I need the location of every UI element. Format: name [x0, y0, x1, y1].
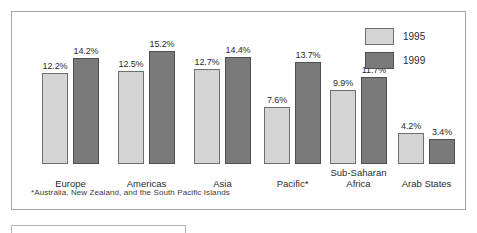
legend-swatch-1999	[365, 52, 394, 69]
bar-1999-Sub-Saharan-Africa[interactable]: 11.7%	[361, 77, 387, 164]
bar-fill	[330, 90, 356, 164]
legend-label-1995: 1995	[403, 31, 425, 42]
chart-legend: 19951999	[365, 26, 451, 74]
bar-fill	[42, 73, 68, 164]
bar-fill	[149, 51, 175, 164]
bar-1995-Pacific-[interactable]: 7.6%	[264, 107, 290, 164]
bar-group: 7.6%13.7%Pacific*	[264, 12, 321, 209]
bar-value-label: 3.4%	[432, 127, 452, 137]
category-label: Pacific*	[264, 178, 321, 189]
bar-value-label: 14.2%	[73, 46, 98, 56]
bar-1999-Asia[interactable]: 14.4%	[225, 57, 251, 164]
lower-panel-edge	[11, 225, 186, 233]
category-label: Sub-Saharan Africa	[330, 167, 387, 189]
bar-fill	[73, 58, 99, 164]
bar-value-label: 15.2%	[149, 39, 174, 49]
category-label: Arab States	[398, 178, 455, 189]
bar-fill	[429, 139, 455, 164]
bar-fill	[295, 62, 321, 164]
bar-1995-Europe[interactable]: 12.2%	[42, 73, 68, 164]
legend-label-1999: 1999	[403, 55, 425, 66]
chart-frame: 12.2%14.2%Europe12.5%15.2%Americas12.7%1…	[11, 11, 466, 210]
bar-1995-Americas[interactable]: 12.5%	[118, 71, 144, 164]
bar-fill	[398, 133, 424, 164]
legend-item-1999[interactable]: 1999	[365, 50, 451, 71]
bar-group: 12.7%14.4%Asia	[194, 12, 251, 209]
bar-fill	[118, 71, 144, 164]
bar-value-label: 4.2%	[401, 121, 421, 131]
bar-value-label: 12.2%	[42, 61, 67, 71]
bar-1999-Americas[interactable]: 15.2%	[149, 51, 175, 164]
bar-value-label: 14.4%	[225, 45, 250, 55]
chart-footnote: *Australia, New Zealand, and the South P…	[31, 188, 230, 197]
bar-value-label: 13.7%	[295, 50, 320, 60]
bar-1999-Pacific-[interactable]: 13.7%	[295, 62, 321, 164]
bar-fill	[361, 77, 387, 164]
bar-value-label: 12.7%	[194, 57, 219, 67]
bar-1995-Asia[interactable]: 12.7%	[194, 69, 220, 164]
bar-fill	[194, 69, 220, 164]
bar-fill	[225, 57, 251, 164]
legend-item-1995[interactable]: 1995	[365, 26, 451, 47]
bar-1995-Arab-States[interactable]: 4.2%	[398, 133, 424, 164]
bar-1995-Sub-Saharan-Africa[interactable]: 9.9%	[330, 90, 356, 164]
bar-1999-Europe[interactable]: 14.2%	[73, 58, 99, 164]
bar-value-label: 12.5%	[118, 59, 143, 69]
bar-fill	[264, 107, 290, 164]
bar-group: 12.2%14.2%Europe	[42, 12, 99, 209]
bar-value-label: 9.9%	[333, 78, 353, 88]
bar-1999-Arab-States[interactable]: 3.4%	[429, 139, 455, 164]
bar-group: 12.5%15.2%Americas	[118, 12, 175, 209]
legend-swatch-1995	[365, 28, 394, 45]
bar-value-label: 7.6%	[267, 95, 287, 105]
